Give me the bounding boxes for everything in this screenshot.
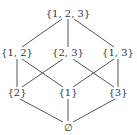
node-empty-set: ∅: [64, 122, 73, 133]
node-set-3: {3}: [108, 87, 127, 98]
edges: [17, 19, 118, 122]
edge-3-0: [73, 99, 115, 122]
node-set-12: {1, 2}: [1, 47, 33, 58]
node-set-1: {1}: [58, 87, 77, 98]
edge-123-13: [74, 19, 114, 47]
edge-2-0: [20, 99, 63, 122]
node-set-23: {2, 3}: [52, 47, 84, 58]
node-set-123: {1, 2, 3}: [46, 8, 91, 19]
node-set-13: {1, 3}: [102, 47, 134, 58]
node-set-2: {2}: [7, 87, 26, 98]
hasse-diagram: {1, 2, 3} {1, 2} {2, 3} {1, 3} {2} {1} {…: [0, 0, 137, 135]
edge-123-12: [22, 19, 62, 47]
